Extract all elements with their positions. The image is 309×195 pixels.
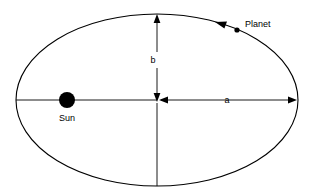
planet-filled-circle-icon xyxy=(234,27,239,32)
arrow-down-icon xyxy=(154,93,161,102)
orbit-direction-arrow-icon xyxy=(215,22,227,29)
arrow-left-icon xyxy=(159,97,168,104)
sun-label: Sun xyxy=(59,113,75,123)
diagram-canvas: Elliptical planetary orbit with semi-maj… xyxy=(0,0,309,195)
semi-major-axis-label: a xyxy=(224,95,229,105)
arrow-up-icon xyxy=(154,14,161,23)
arrow-right-icon xyxy=(288,97,297,104)
orbit-diagram: Elliptical planetary orbit with semi-maj… xyxy=(0,0,309,195)
semi-minor-axis-label: b xyxy=(150,55,155,65)
sun-filled-circle-icon xyxy=(59,92,75,108)
planet-label: Planet xyxy=(245,19,271,29)
